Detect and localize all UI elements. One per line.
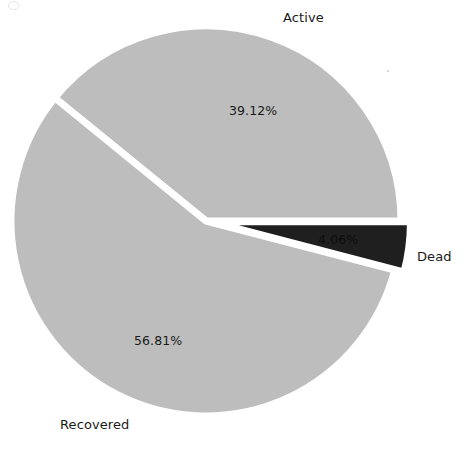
pie-chart-canvas xyxy=(0,0,474,454)
scan-artifact-speck xyxy=(387,70,389,72)
pie-percent-dead: 4.06% xyxy=(318,234,358,247)
scan-artifact-corner xyxy=(8,1,19,10)
pie-label-dead: Dead xyxy=(417,250,452,263)
pie-label-active: Active xyxy=(283,11,324,24)
pie-chart: Active 39.12% Dead 4.06% Recovered 56.81… xyxy=(0,0,474,454)
pie-label-recovered: Recovered xyxy=(60,418,129,431)
pie-percent-recovered: 56.81% xyxy=(134,335,182,348)
pie-percent-active: 39.12% xyxy=(229,105,277,118)
